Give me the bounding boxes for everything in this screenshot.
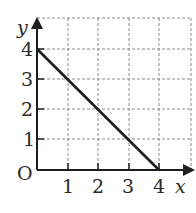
y-tick-label-3: 3 (21, 68, 33, 90)
y-axis-label: y (16, 16, 28, 38)
line-chart: y 4 3 2 1 O 1 2 3 4 x (0, 0, 196, 213)
x-axis-label: x (175, 175, 186, 197)
grid (37, 18, 192, 170)
y-axis-arrow-icon (31, 17, 43, 29)
x-ticks (68, 163, 159, 170)
x-tick-label-4: 4 (153, 175, 165, 197)
x-tick-label-3: 3 (122, 175, 134, 197)
y-tick-label-4: 4 (21, 38, 33, 60)
y-tick-label-1: 1 (23, 128, 35, 150)
y-ticks (37, 49, 44, 139)
origin-label: O (17, 162, 33, 184)
x-tick-label-1: 1 (62, 175, 74, 197)
series-line (37, 49, 159, 170)
y-tick-label-2: 2 (21, 98, 33, 120)
x-tick-label-2: 2 (92, 175, 104, 197)
